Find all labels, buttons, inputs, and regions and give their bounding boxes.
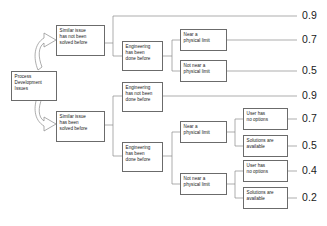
node-engineering-not-done[interactable]: Engineering has not been done before	[122, 82, 163, 112]
outcome-value-8: 0.2	[302, 192, 317, 203]
outcome-value-5: 0.7	[302, 113, 317, 124]
node-solutions-available-1[interactable]: Solutions are available	[243, 135, 288, 157]
node-user-has-no-options-2[interactable]: User has no options	[243, 160, 288, 182]
root-upper-arrow-icon	[35, 33, 56, 70]
outcome-value-1: 0.9	[302, 10, 317, 21]
node-near-physical-limit-lower[interactable]: Near a physical limit	[180, 121, 227, 143]
node-engineering-done-lower[interactable]: Engineering has been done before	[122, 142, 163, 172]
node-similar-issue-not-solved[interactable]: Similar issue has not been solved before	[56, 25, 105, 56]
node-user-has-no-options-1[interactable]: User has no options	[243, 108, 288, 130]
outcome-value-2: 0.7	[302, 34, 317, 45]
outcome-value-7: 0.4	[302, 165, 317, 176]
outcome-value-6: 0.5	[302, 140, 317, 151]
outcome-value-3: 0.5	[302, 65, 317, 76]
node-similar-issue-solved[interactable]: Similar issue has been solved before	[56, 111, 105, 142]
node-not-near-physical-limit-lower[interactable]: Not near a physical limit	[180, 173, 227, 195]
node-solutions-available-2[interactable]: Solutions are available	[243, 187, 288, 209]
node-near-physical-limit-upper[interactable]: Near a physical limit	[180, 29, 227, 51]
outcome-value-4: 0.9	[302, 90, 317, 101]
node-root-process-development-issues[interactable]: Process Development Issues	[11, 71, 57, 101]
node-engineering-done-upper[interactable]: Engineering has been done before	[122, 41, 163, 71]
node-not-near-physical-limit-upper[interactable]: Not near a physical limit	[180, 60, 227, 82]
decision-tree-diagram: Process Development Issues Similar issue…	[0, 0, 327, 226]
